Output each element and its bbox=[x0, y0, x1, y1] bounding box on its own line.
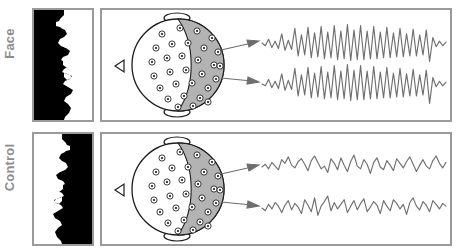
arrow-to-trace-2 bbox=[221, 77, 259, 84]
row-label-control: Control bbox=[2, 137, 17, 199]
arrow-to-trace-2 bbox=[221, 201, 259, 208]
eeg-recording-diagram bbox=[102, 10, 450, 120]
row-label-face: Face bbox=[2, 13, 17, 75]
arrow-to-trace-1 bbox=[221, 40, 259, 50]
row-control: Control bbox=[0, 130, 457, 248]
stimulus-panel-control bbox=[32, 132, 94, 246]
stimulus-panel-face bbox=[32, 8, 94, 122]
eeg-recording-diagram bbox=[102, 134, 450, 244]
figure-root: Face bbox=[0, 0, 457, 250]
mooney-face-stimulus bbox=[34, 10, 92, 120]
arrow-to-trace-1 bbox=[221, 164, 259, 174]
eeg-trace-2 bbox=[262, 65, 446, 104]
eeg-trace-2 bbox=[262, 196, 446, 215]
eeg-trace-1 bbox=[262, 155, 446, 173]
row-face: Face bbox=[0, 6, 457, 124]
eeg-head-map bbox=[115, 137, 224, 241]
control-stimulus bbox=[34, 134, 92, 244]
eeg-trace-1 bbox=[262, 25, 446, 62]
record-panel-control bbox=[100, 132, 452, 246]
record-panel-face bbox=[100, 8, 452, 122]
eeg-head-map bbox=[115, 13, 224, 117]
